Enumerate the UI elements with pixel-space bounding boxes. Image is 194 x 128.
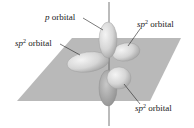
label-italic: sp [137,19,145,29]
label-sp2-left: sp2 orbital [15,38,52,48]
leader-p-orbital [83,18,103,30]
label-sp2-upper-right: sp2 orbital [137,19,174,29]
label-text: orbital [26,38,52,48]
label-text: orbital [146,103,172,113]
label-italic: sp [15,38,23,48]
label-p-orbital: p orbital [45,12,75,22]
p-orbital-upper-lobe [99,22,117,58]
label-italic: sp [135,103,143,113]
label-text: orbital [148,19,174,29]
label-text: orbital [50,12,76,22]
sp2-orbital-lower-right-lobe [107,67,131,89]
label-sp2-lower-right: sp2 orbital [135,103,172,113]
